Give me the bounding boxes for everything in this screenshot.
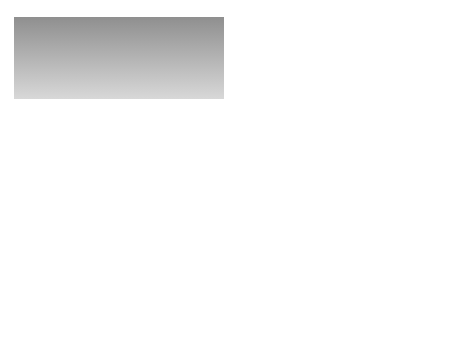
iceberg-illustration: [0, 0, 472, 344]
iceberg-diagram: [0, 0, 472, 344]
